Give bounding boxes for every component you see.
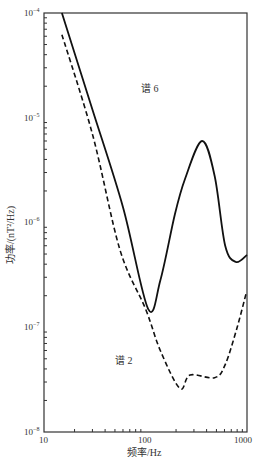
y-label-1e-5: 10−5	[24, 112, 39, 123]
y-label-1e-7: 10−7	[24, 321, 39, 332]
axis-ticks	[44, 18, 242, 432]
y-label-1e-4: 10−4	[24, 7, 39, 18]
y-label-1e-6: 10−6	[24, 216, 39, 227]
y-tick-labels: 10−4 10−5 10−6 10−7 10−8	[24, 7, 39, 437]
x-label-100: 100	[138, 435, 152, 445]
series-2-label: 谱 2	[115, 354, 133, 366]
y-label-1e-8: 10−8	[24, 426, 39, 437]
series-6-label: 谱 6	[141, 82, 159, 94]
series-spectrum-6-line	[62, 13, 247, 312]
spectrum-chart: 谱 6 谱 2 10−4 10−5 10−6 10−7 10−8 10 100 …	[0, 0, 260, 464]
x-axis-title: 频率/Hz	[127, 446, 162, 458]
x-label-1000: 1000	[234, 435, 253, 445]
x-label-10: 10	[39, 435, 49, 445]
y-axis-title: 功率/(nT²/Hz)	[4, 206, 17, 264]
